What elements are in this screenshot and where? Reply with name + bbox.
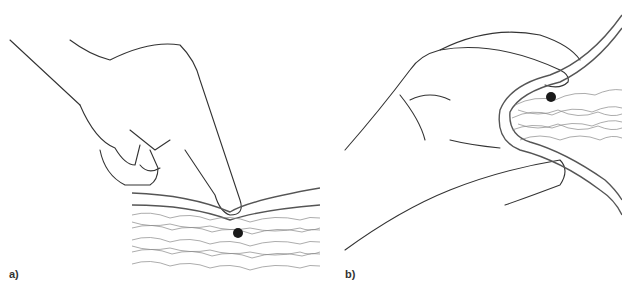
tissue-fold-layer [512, 90, 622, 140]
target-point-marker [233, 228, 243, 238]
panel-label-b: b) [345, 268, 355, 280]
panel-label-a: a) [9, 268, 19, 280]
tissue-layer [132, 213, 320, 270]
target-point-marker [546, 92, 556, 102]
finger-press-illustration [0, 0, 320, 297]
panel-b: b) [320, 0, 622, 297]
panel-a: a) [0, 0, 320, 297]
pinch-fold-illustration [320, 0, 622, 297]
